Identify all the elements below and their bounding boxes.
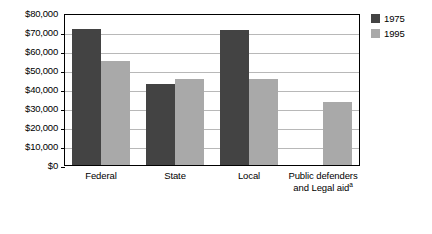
x-category-label-line: Local — [238, 170, 260, 181]
x-category-label: Public defendersand Legal aida — [268, 170, 378, 193]
legend-item-1975[interactable]: 1975 — [371, 12, 429, 25]
x-category-label-line: and Legal aida — [268, 182, 378, 194]
legend-swatch-icon — [371, 29, 380, 38]
y-tick-label: $50,000 — [25, 66, 58, 76]
bar-group — [287, 15, 361, 165]
y-tick-label: $10,000 — [25, 142, 58, 152]
bar-1975-local — [220, 30, 249, 165]
y-tick-label: $80,000 — [25, 9, 58, 19]
bar-1995-state — [175, 79, 204, 165]
x-category-label-line: Federal — [85, 170, 117, 181]
y-tick-label: $20,000 — [25, 123, 58, 133]
bar-1975-federal — [72, 29, 101, 165]
y-tick-label: $70,000 — [25, 28, 58, 38]
legend-label: 1975 — [384, 14, 405, 24]
bar-1995-federal — [101, 61, 130, 165]
y-tick-label: $60,000 — [25, 47, 58, 57]
bar-group — [213, 15, 287, 165]
bar-1975-state — [146, 84, 175, 165]
bar-1995-public-defenders-and-legal-aid — [323, 102, 352, 165]
legend-swatch-icon — [371, 14, 380, 23]
y-tick-label: $40,000 — [25, 85, 58, 95]
x-category-label-line: State — [164, 170, 186, 181]
plot-area — [64, 14, 360, 166]
bar-group — [65, 15, 139, 165]
x-category-label-line: Public defenders — [288, 170, 357, 181]
y-axis-tick-labels: $0$10,000$20,000$30,000$40,000$50,000$60… — [0, 14, 62, 166]
y-tick-label: $30,000 — [25, 104, 58, 114]
bar-1995-local — [249, 79, 278, 165]
legend-label: 1995 — [384, 29, 405, 39]
y-axis-tick — [61, 167, 65, 168]
chart-legend: 19751995 — [371, 12, 429, 42]
bars-layer — [65, 15, 359, 165]
x-axis-category-labels: FederalStateLocalPublic defendersand Leg… — [64, 170, 360, 210]
bar-group — [139, 15, 213, 165]
legend-item-1995[interactable]: 1995 — [371, 27, 429, 40]
footnote-marker: a — [349, 180, 353, 187]
bar-chart: $0$10,000$20,000$30,000$40,000$50,000$60… — [0, 0, 432, 234]
